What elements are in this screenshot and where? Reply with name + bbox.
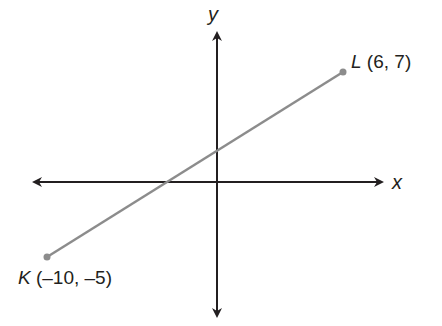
x-axis-label: x: [392, 172, 402, 192]
segment-kl: [47, 72, 343, 257]
point-l-name: L: [351, 51, 362, 72]
point-k-dot: [44, 254, 51, 261]
y-axis-label: y: [208, 4, 218, 24]
point-l-coords: (6, 7): [367, 51, 411, 72]
point-k-name: K: [18, 267, 31, 288]
point-l-label: L (6, 7): [351, 52, 411, 71]
point-k-label: K (–10, –5): [18, 268, 112, 287]
point-l-dot: [340, 69, 347, 76]
point-k-coords: (–10, –5): [36, 267, 112, 288]
